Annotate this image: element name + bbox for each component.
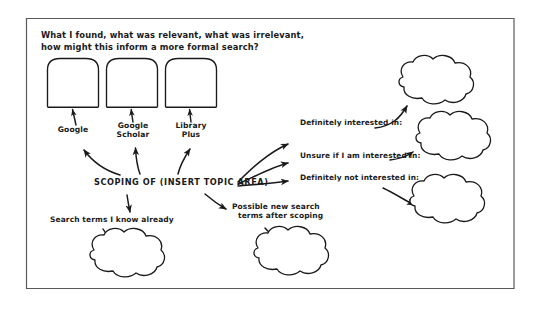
source-box-library-plus	[166, 59, 217, 108]
interest-label-unsure-interested: Unsure if I am interested in:	[300, 152, 421, 161]
arrow-center-to-google-scholar	[136, 148, 141, 174]
diagram-canvas: What I found, what was relevant, what wa…	[0, 0, 539, 311]
source-box-google-scholar	[107, 59, 158, 108]
interest-label-not-interested: Definitely not interested in:	[300, 174, 419, 183]
page-title-line-1: What I found, what was relevant, what wa…	[41, 30, 304, 40]
center-node-label: SCOPING OF (INSERT TOPIC AREA)	[94, 178, 240, 188]
source-label-google: Google	[43, 126, 103, 135]
cloud-known-terms	[90, 228, 165, 276]
search-terms-known-label: Search terms I know already	[50, 216, 174, 225]
cloud-definitely-interested	[399, 55, 474, 103]
arrow-center-to-google	[84, 150, 120, 175]
arrow-google-label-to-box	[73, 110, 77, 126]
cloud-new-terms	[254, 226, 329, 274]
arrow-not-interested-to-cloud	[383, 188, 414, 205]
arrow-center-to-library-plus	[178, 149, 190, 174]
cloud-unsure-interested	[416, 111, 491, 159]
search-terms-new-label: Possible new searchterms after scoping	[232, 203, 323, 221]
source-label-google-scholar: GoogleScholar	[104, 122, 162, 140]
arrow-center-to-new-terms	[205, 194, 226, 209]
source-box-google	[48, 59, 99, 108]
arrow-center-to-known-terms	[127, 195, 130, 212]
page-title-line-2: how might this inform a more formal sear…	[41, 42, 259, 52]
page-title: What I found, what was relevant, what wa…	[41, 29, 331, 53]
source-label-library-plus: LibraryPlus	[162, 122, 220, 140]
cloud-not-interested	[410, 174, 485, 222]
interest-label-definitely-interested: Definitely interested in:	[300, 119, 402, 128]
